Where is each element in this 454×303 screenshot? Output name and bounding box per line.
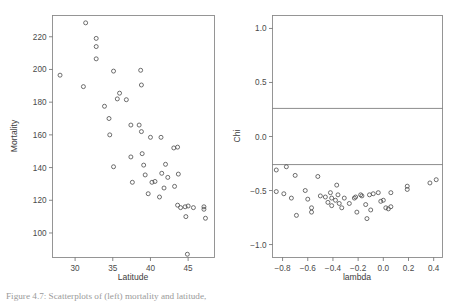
left-panel-frame <box>53 16 215 258</box>
left-scatter-points <box>58 21 207 256</box>
right-panel: −1.0−0.50.00.51.0 −0.8−0.6−0.4−0.20.00.2… <box>232 16 443 283</box>
svg-text:0.0: 0.0 <box>378 264 390 273</box>
svg-text:120: 120 <box>33 196 47 205</box>
svg-text:1.0: 1.0 <box>255 24 267 33</box>
left-x-axis-ticks: 30354045 <box>71 258 194 273</box>
figure-plot-area: 100120140160180200220 30354045 Latitude … <box>0 0 454 303</box>
svg-text:−0.4: −0.4 <box>325 264 342 273</box>
svg-text:−0.6: −0.6 <box>300 264 317 273</box>
svg-text:45: 45 <box>184 264 194 273</box>
left-panel: 100120140160180200220 30354045 Latitude … <box>9 16 215 283</box>
svg-text:200: 200 <box>33 65 47 74</box>
figure-caption: Figure 4.7: Scatterplots of (left) morta… <box>6 291 448 302</box>
svg-text:0.0: 0.0 <box>255 133 267 142</box>
right-y-axis-title: Chi <box>232 129 242 142</box>
right-scatter-points <box>274 165 438 221</box>
svg-text:30: 30 <box>71 264 81 273</box>
svg-text:0.5: 0.5 <box>255 78 267 87</box>
svg-text:−0.5: −0.5 <box>250 187 267 196</box>
svg-text:140: 140 <box>33 164 47 173</box>
svg-text:0.2: 0.2 <box>403 264 415 273</box>
right-y-axis-ticks: −1.0−0.50.00.51.0 <box>250 24 272 249</box>
right-reference-lines <box>273 108 443 164</box>
right-x-axis-ticks: −0.8−0.6−0.4−0.20.00.20.4 <box>274 258 439 273</box>
svg-text:180: 180 <box>33 98 47 107</box>
svg-text:220: 220 <box>33 33 47 42</box>
right-x-axis-title: lambda <box>343 272 371 282</box>
svg-text:−1.0: −1.0 <box>250 241 267 250</box>
svg-text:100: 100 <box>33 229 47 238</box>
svg-text:160: 160 <box>33 131 47 140</box>
svg-text:0.4: 0.4 <box>428 264 440 273</box>
left-y-axis-ticks: 100120140160180200220 <box>33 33 53 238</box>
left-x-axis-title: Latitude <box>118 272 149 282</box>
svg-text:35: 35 <box>108 264 118 273</box>
left-y-axis-title: Mortality <box>9 119 19 152</box>
figure-container: 100120140160180200220 30354045 Latitude … <box>0 0 454 303</box>
right-panel-frame <box>273 16 443 258</box>
svg-text:−0.8: −0.8 <box>274 264 291 273</box>
